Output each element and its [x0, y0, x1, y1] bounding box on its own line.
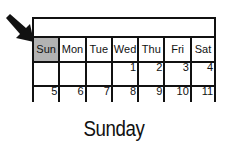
weekday-fri[interactable]: Fri — [163, 36, 189, 61]
date-number: 2 — [156, 61, 162, 74]
date-cell[interactable]: 9 — [137, 85, 163, 102]
caption-label: Sunday — [17, 116, 211, 142]
date-number: 6 — [77, 85, 83, 98]
date-cell[interactable]: 1 — [111, 61, 137, 85]
date-cell[interactable]: 10 — [163, 85, 189, 102]
date-number: 11 — [202, 85, 213, 98]
date-number: 5 — [51, 85, 57, 98]
date-cell[interactable]: 11 — [190, 85, 216, 102]
date-cell[interactable]: 3 — [163, 61, 189, 85]
date-cell[interactable]: 8 — [111, 85, 137, 102]
weekday-sat[interactable]: Sat — [190, 36, 216, 61]
date-number: 3 — [183, 61, 189, 74]
date-number: 4 — [207, 61, 213, 74]
date-cell[interactable]: 4 — [190, 61, 216, 85]
week-row-2: 5 6 7 8 9 10 11 — [32, 85, 216, 102]
weekday-header-row: Sun Mon Tue Wed Thu Fri Sat — [32, 36, 216, 61]
date-cell[interactable]: 5 — [32, 85, 58, 102]
weekday-tue[interactable]: Tue — [85, 36, 111, 61]
weekday-thu[interactable]: Thu — [137, 36, 163, 61]
date-number: 9 — [156, 85, 162, 98]
calendar-title-bar — [32, 17, 216, 38]
week-row-1: 1 2 3 4 — [32, 61, 216, 85]
weekday-mon[interactable]: Mon — [58, 36, 84, 61]
date-number: 8 — [130, 85, 136, 98]
date-number: 10 — [177, 85, 189, 98]
date-cell[interactable] — [32, 61, 58, 85]
date-number: 1 — [130, 61, 136, 74]
date-cell[interactable]: 7 — [85, 85, 111, 102]
weekday-wed[interactable]: Wed — [111, 36, 137, 61]
date-cell[interactable] — [85, 61, 111, 85]
date-cell[interactable]: 6 — [58, 85, 84, 102]
date-number: 7 — [104, 85, 110, 98]
weekday-sun[interactable]: Sun — [32, 36, 58, 61]
date-cell[interactable]: 2 — [137, 61, 163, 85]
date-cell[interactable] — [58, 61, 84, 85]
